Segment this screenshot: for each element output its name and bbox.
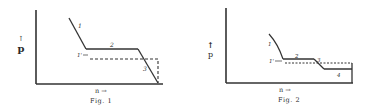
fig2-caption: Fig. 2 [278, 96, 300, 104]
fig2-label-4: 4 [336, 72, 341, 78]
fig2-label-2: 2 [294, 53, 299, 59]
fig2-x-axis-label: n → [279, 86, 291, 94]
fig1-x-axis-label: n → [95, 87, 107, 95]
figure-2: 1 2 3 4 1' ↑ p n → Fig. 2 [207, 8, 353, 104]
fig2-label-1: 1 [268, 41, 272, 47]
fig1-label-2: 2 [109, 41, 114, 48]
fig2-label-3: 3 [317, 57, 321, 63]
fig1-y-arrow-icon: ↑ [18, 35, 24, 43]
fig1-label-1: 1 [78, 22, 82, 29]
fig1-label-1prime: 1' [77, 52, 82, 58]
fig1-curve-3 [138, 49, 158, 83]
fig1-caption: Fig. 1 [90, 97, 112, 105]
fig1-y-axis-label: p [18, 43, 25, 54]
fig1-label-3: 3 [143, 65, 147, 72]
figure-1: 1 2 3 1' ↑ p n → Fig. 1 [18, 10, 164, 105]
fig1-dashed-curve-1prime [90, 59, 158, 83]
fig2-y-axis-label: p [208, 50, 213, 59]
fig2-label-1prime: 1' [269, 58, 274, 64]
diagram-canvas: 1 2 3 1' ↑ p n → Fig. 1 1 2 3 4 1' [0, 0, 371, 110]
fig2-y-arrow-icon: ↑ [207, 40, 214, 50]
